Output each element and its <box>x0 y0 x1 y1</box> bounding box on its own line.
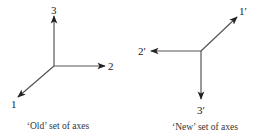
old-axes-caption: ‘Old’ set of axes <box>27 121 90 131</box>
new-axes-caption: ‘New’ set of axes <box>172 122 238 132</box>
old-axis-1-label: 1 <box>11 98 17 110</box>
new-axis-2-label: 2′ <box>138 45 146 57</box>
old-axis-2-label: 2 <box>108 60 114 72</box>
new-axis-1-arrow <box>201 17 237 51</box>
axes-diagram: 3 2 1 ‘Old’ set of axes 1′ 2′ 3′ ‘New’ s… <box>0 0 260 138</box>
new-axis-1-label: 1′ <box>239 5 247 17</box>
old-axis-3-label: 3 <box>51 4 57 16</box>
new-axis-3-label: 3′ <box>197 104 205 116</box>
new-axes-group: 1′ 2′ 3′ ‘New’ set of axes <box>138 5 247 132</box>
old-axes-group: 3 2 1 ‘Old’ set of axes <box>11 4 114 131</box>
old-axis-1-arrow <box>18 66 54 97</box>
